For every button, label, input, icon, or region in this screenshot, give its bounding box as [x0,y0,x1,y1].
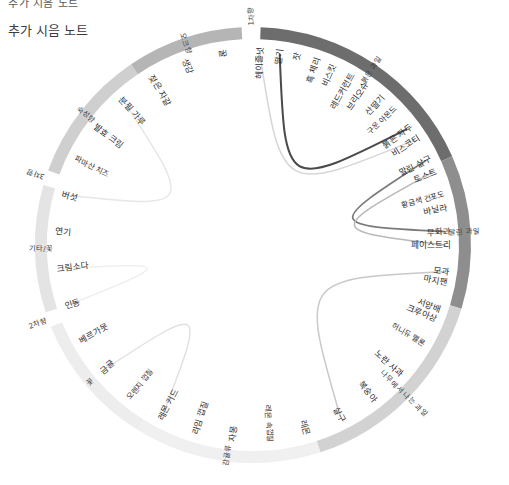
leaf-label-17[interactable]: 라임 껍질 [189,399,210,435]
leaf-label-23[interactable]: 크림소다 [56,259,89,274]
leaf-label-12[interactable]: 복숭아 [356,379,379,404]
arc-label-7: 기타/꽃 [29,244,53,253]
leaf-label-21[interactable]: 베르가못 [77,321,110,345]
leaf-label-34[interactable]: 비스킷 [318,62,338,88]
leaf-label-20[interactable]: 금귤 [98,358,117,376]
leaf-label-1[interactable]: 흑 체리 [303,56,322,85]
leaf-label-27[interactable]: 발효 크림 [92,121,126,151]
leaf-label-25[interactable]: 버섯 [60,189,78,203]
leaf-label-30[interactable]: 생강 [181,57,196,75]
outer-arc-group: 1차향붉은 과일말린 과일나무에서 나는 과일감귤류꽃2차향기타/꽃3차향숙성향… [25,6,481,466]
arc-label-4: 감귤류 [221,444,233,467]
leaf-label-10[interactable]: 허니듀 멜론 [390,321,427,348]
leaf-label-32[interactable]: 헤이즐넛 [254,47,265,79]
arc-segment-5[interactable] [51,322,144,430]
leaf-label-16[interactable]: 자몽 [227,425,239,442]
arc-label-6: 2차향 [27,316,48,331]
aroma-wheel-chart: 1차향붉은 과일말린 과일나무에서 나는 과일감귤류꽃2차향기타/꽃3차향숙성향… [0,0,509,485]
leaf-label-39[interactable]: 바닐라 [423,202,448,216]
aroma-wheel-page: 추가 시음 노트 추가 시음 노트 1차향붉은 과일말린 과일나무에서 나는 과… [0,0,509,485]
arc-label-0: 1차향 [246,6,255,25]
leaf-label-33[interactable]: 잣 [291,51,303,61]
leaf-label-18[interactable]: 레몬 커드 [156,387,181,422]
leaf-label-14[interactable]: 레몬 [298,419,312,437]
leaf-label-19[interactable]: 오렌지 껍질 [124,366,155,401]
leaf-label-15[interactable]: 레몬 속껍질 [263,405,275,443]
leaf-label-28[interactable]: 분필 가루 [117,94,148,127]
leaf-label-22[interactable]: 인동 [63,296,81,310]
arc-label-2: 말린 과일 [449,227,481,238]
leaf-label-31[interactable]: 꿀 [217,49,228,58]
leaf-label-29[interactable]: 젖은 자갈 [147,72,174,107]
leaf-label-40[interactable]: 페이스트리 [411,240,451,250]
leaf-label-0[interactable]: 딸기 [272,48,285,65]
leaf-label-7[interactable]: 무화과 [426,226,451,238]
leaf-label-13[interactable]: 살구 [331,405,347,424]
leaf-label-24[interactable]: 연기 [55,226,72,237]
arc-label-8: 3차향 [25,167,46,181]
leaf-label-26[interactable]: 파마산 치즈 [73,153,111,178]
